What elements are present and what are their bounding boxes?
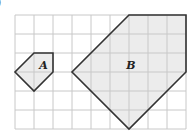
- shape-a-label: A: [38, 59, 48, 72]
- grid-diagram: AB: [0, 0, 192, 137]
- shape-b-label: B: [125, 59, 135, 72]
